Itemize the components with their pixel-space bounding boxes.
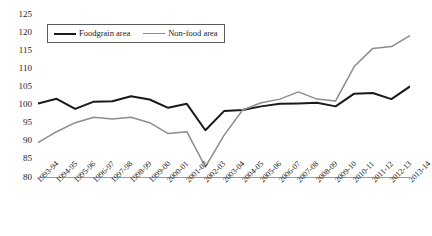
y-axis-tick-115: 115	[19, 46, 32, 55]
y-axis-tick-125: 125	[19, 10, 33, 19]
y-axis: 12512011511010510095908580	[0, 0, 34, 236]
legend-item-non-food-area: Non-food area	[143, 29, 217, 38]
legend-item-foodgrain-area: Foodgrain area	[54, 29, 130, 38]
y-axis-tick-85: 85	[23, 154, 32, 163]
legend-label-foodgrain: Foodgrain area	[79, 29, 130, 38]
series-line-foodgrain-area	[38, 86, 410, 130]
legend-label-nonfood: Non-food area	[168, 29, 217, 38]
legend-swatch-icon-foodgrain	[54, 33, 76, 35]
legend-swatch-icon-nonfood	[143, 33, 165, 34]
y-axis-tick-80: 80	[23, 173, 32, 182]
y-axis-tick-90: 90	[23, 136, 32, 145]
y-axis-tick-95: 95	[23, 118, 32, 127]
y-axis-tick-110: 110	[19, 64, 32, 73]
y-axis-tick-120: 120	[19, 28, 33, 37]
legend: Foodgrain area Non-food area	[47, 24, 225, 43]
y-axis-tick-105: 105	[19, 82, 33, 91]
y-axis-tick-100: 100	[19, 100, 33, 109]
x-axis: 1993-941994-951995-961996-971997-981998-…	[38, 178, 414, 236]
